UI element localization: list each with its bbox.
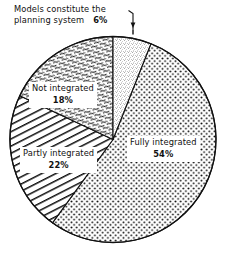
slice-label-partly-integrated-percent: 22% <box>23 160 94 171</box>
slice-label-partly-integrated-name: Partly integrated <box>23 148 94 158</box>
slice-label-fully-integrated: Fully integrated 54% <box>127 136 200 162</box>
callout-line-2-wrap: planning system6% <box>14 15 136 26</box>
slice-label-not-integrated: Not integrated 18% <box>29 82 97 108</box>
slice-label-fully-integrated-name: Fully integrated <box>130 137 197 147</box>
callout-line-2: planning system <box>14 15 84 25</box>
slice-label-not-integrated-name: Not integrated <box>32 83 94 93</box>
pie-chart: Models constitute the planning system6% … <box>0 0 228 261</box>
slice-label-partly-integrated: Partly integrated 22% <box>20 147 97 173</box>
pie-chart-svg <box>0 0 228 261</box>
callout-percent: 6% <box>93 15 107 25</box>
callout-label: Models constitute the planning system6% <box>14 4 136 25</box>
callout-line-1: Models constitute the <box>14 4 106 14</box>
slice-label-fully-integrated-percent: 54% <box>130 149 197 160</box>
slice-label-not-integrated-percent: 18% <box>32 95 94 106</box>
